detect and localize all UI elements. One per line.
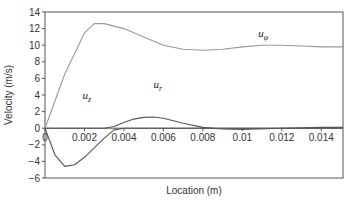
x-tick-label: 0.01 xyxy=(233,132,253,143)
x-tick-label: 0.002 xyxy=(72,132,97,143)
y-tick-label: 10 xyxy=(29,40,41,51)
y-tick-label: −4 xyxy=(29,156,41,167)
y-tick-label: 4 xyxy=(34,90,40,101)
line-chart: 14121086420−2−4−600.0020.0040.0060.0080.… xyxy=(0,0,350,200)
x-axis-label: Location (m) xyxy=(166,185,222,196)
series-u-phi xyxy=(45,24,343,129)
y-tick-label: 2 xyxy=(34,106,40,117)
x-tick-label: 0.014 xyxy=(309,132,334,143)
curve-label-u-r: ur xyxy=(154,78,164,93)
curve-label-u-phi: uφ xyxy=(258,27,269,42)
y-tick-label: 14 xyxy=(29,7,41,18)
x-tick-label: 0.012 xyxy=(269,132,294,143)
y-tick-label: 8 xyxy=(34,56,40,67)
x-tick-label: 0.006 xyxy=(151,132,176,143)
y-tick-label: 0 xyxy=(34,123,40,134)
y-tick-label: 12 xyxy=(29,23,41,34)
curve-label-u-z: uz xyxy=(82,89,92,104)
y-tick-label: −6 xyxy=(29,173,41,184)
x-tick-label: 0.008 xyxy=(190,132,215,143)
y-tick-label: −2 xyxy=(29,139,41,150)
y-axis-label: Velocity (m/s) xyxy=(3,65,14,125)
series-u-r xyxy=(45,117,343,129)
y-tick-label: 6 xyxy=(34,73,40,84)
x-tick-label: 0.004 xyxy=(111,132,136,143)
